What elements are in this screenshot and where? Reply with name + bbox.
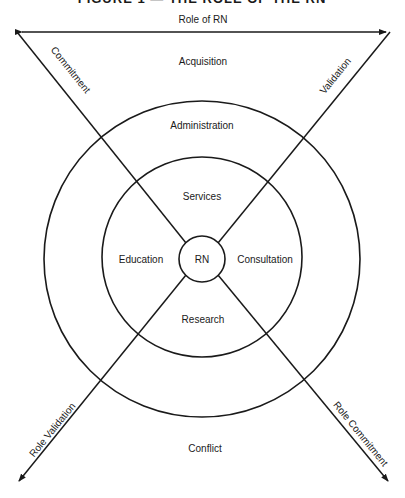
validation-label: Validation xyxy=(317,56,353,96)
role-validation-label: Role Validation xyxy=(27,400,77,459)
commitment-label: Commitment xyxy=(49,44,93,95)
education-label: Education xyxy=(119,254,163,265)
role-of-rn-diagram: FIGURE 1 — THE ROLE OF THE RN Role of RN… xyxy=(0,0,405,498)
validation-line xyxy=(218,32,390,243)
commitment-line xyxy=(17,32,186,243)
rn-label: RN xyxy=(195,254,209,265)
conflict-label: Conflict xyxy=(188,443,222,454)
consultation-label: Consultation xyxy=(237,254,293,265)
administration-label: Administration xyxy=(170,120,233,131)
role-commitment-arrow xyxy=(218,275,388,481)
research-label: Research xyxy=(182,314,225,325)
role-validation-arrow xyxy=(19,275,186,481)
acquisition-label: Acquisition xyxy=(179,56,227,67)
figure-title: FIGURE 1 — THE ROLE OF THE RN xyxy=(78,0,327,6)
role-of-rn-label: Role of RN xyxy=(179,14,228,25)
services-label: Services xyxy=(183,191,221,202)
role-commitment-label: Role Commitment xyxy=(331,399,390,468)
